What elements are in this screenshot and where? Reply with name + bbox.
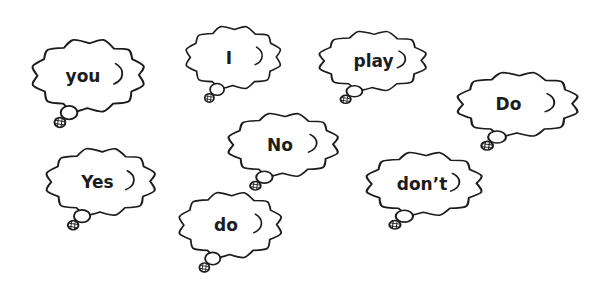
thought-bubble-yes: Yes [44,147,159,235]
thought-bubble-do-lower: do [177,191,285,277]
cloud-outline-icon [455,71,582,155]
thought-bubble-i: I [184,25,284,107]
cloud-outline-icon [177,191,285,277]
cloud-outline-icon [226,112,342,195]
thought-bubble-play: play [317,30,430,108]
thought-bubble-dont: don’t [364,151,486,234]
cloud-outline-icon [30,38,148,133]
thought-bubble-you: you [30,38,148,133]
thought-bubble-no: No [226,112,342,195]
worksheet-canvas: you I play Do No Yes do don’t [0,0,597,288]
cloud-outline-icon [317,30,430,108]
thought-bubble-do-upper: Do [455,71,582,155]
cloud-outline-icon [364,151,486,234]
cloud-outline-icon [44,147,159,235]
cloud-outline-icon [184,25,284,107]
